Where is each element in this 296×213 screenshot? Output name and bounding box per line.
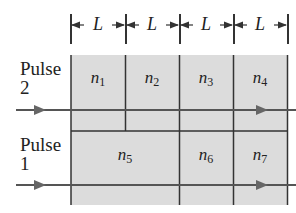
pulse-1-arrow-icon (256, 180, 268, 190)
pulse-2-arrow-icon (256, 105, 268, 115)
cell-n2: n2 (145, 68, 160, 90)
cell-n7: n7 (253, 145, 268, 167)
length-label-3: L (201, 14, 211, 35)
length-label-2: L (147, 14, 157, 35)
cell-n5: n5 (118, 145, 133, 167)
length-label-1: L (93, 14, 103, 35)
cell-n6: n6 (199, 145, 214, 167)
pulse-2-label: Pulse 2 (20, 59, 61, 97)
pulse-1-label: Pulse 1 (20, 135, 61, 173)
cell-n4: n4 (253, 68, 268, 90)
pulse-1-arrow-icon (34, 180, 46, 190)
cell-n1: n1 (91, 68, 106, 90)
pulse-2-arrow-icon (34, 105, 46, 115)
length-label-4: L (255, 14, 265, 35)
cell-n3: n3 (199, 68, 214, 90)
